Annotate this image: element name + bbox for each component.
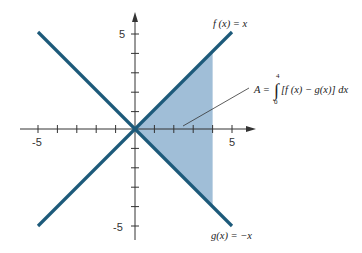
- y-axis-arrow-icon: [132, 12, 138, 22]
- x-tick-label-neg5: -5: [32, 136, 42, 148]
- area-lhs: A =: [253, 84, 270, 95]
- f-curve-label: f (x) = x: [213, 18, 248, 30]
- area-integral-formula: A = ∫ 4 0 [f (x) − g(x)] dx: [253, 72, 348, 106]
- integral-lower-limit: 0: [274, 98, 278, 106]
- y-tick-label-neg5: -5: [113, 221, 123, 233]
- area-between-curves-diagram: -5 5 5 -5 f (x) = x g(x) = −x A = ∫ 4 0 …: [0, 0, 362, 253]
- integral-upper-limit: 4: [276, 72, 280, 80]
- x-axis-arrow-icon: [246, 126, 256, 132]
- g-curve-label: g(x) = −x: [211, 230, 252, 242]
- integrand: [f (x) − g(x)] dx: [281, 84, 348, 96]
- y-tick-label-5: 5: [119, 28, 125, 40]
- x-tick-label-5: 5: [229, 136, 235, 148]
